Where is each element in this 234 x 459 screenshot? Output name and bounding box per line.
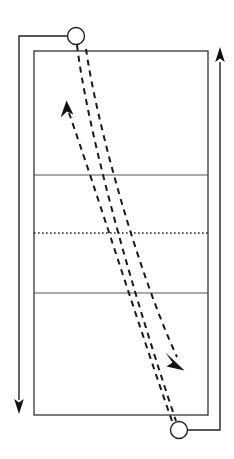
arrowhead-left-down-icon bbox=[14, 399, 24, 414]
player-bottom[interactable] bbox=[171, 422, 188, 439]
court-diagram-root bbox=[0, 0, 234, 459]
court-boundary bbox=[34, 51, 208, 415]
player-top[interactable] bbox=[68, 28, 85, 45]
court-diagram-svg bbox=[0, 0, 234, 459]
arrowhead-right-up-icon bbox=[215, 47, 225, 62]
